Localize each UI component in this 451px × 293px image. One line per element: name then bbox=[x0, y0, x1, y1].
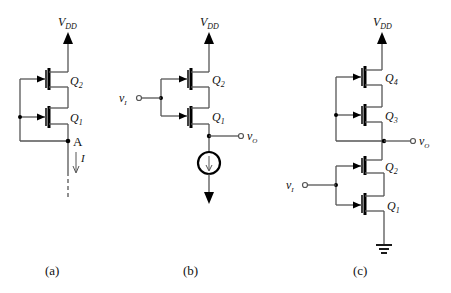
svg-text:Q3: Q3 bbox=[385, 109, 398, 125]
input-terminal-c bbox=[303, 183, 308, 188]
svg-text:Q4: Q4 bbox=[385, 71, 398, 87]
output-terminal-c bbox=[411, 139, 416, 144]
vdd-label-a: VDD bbox=[58, 15, 77, 31]
caption-a: (a) bbox=[45, 263, 59, 278]
svg-text:vI: vI bbox=[119, 91, 127, 107]
svg-text:VDD: VDD bbox=[200, 15, 219, 31]
input-terminal-b bbox=[137, 96, 142, 101]
caption-c: (c) bbox=[353, 263, 367, 278]
output-terminal-b bbox=[239, 134, 244, 139]
svg-text:vO: vO bbox=[247, 129, 257, 145]
svg-text:Q2: Q2 bbox=[70, 74, 83, 90]
caption-b: (b) bbox=[183, 263, 198, 278]
svg-text:I: I bbox=[80, 152, 86, 164]
panel-a: VDD Q2 Q1 A I (a) bbox=[18, 15, 86, 278]
svg-text:Q1: Q1 bbox=[70, 111, 83, 127]
svg-text:Q1: Q1 bbox=[387, 199, 400, 215]
panel-b: VDD Q2 Q1 vI vO (b bbox=[119, 15, 257, 278]
svg-text:Q1: Q1 bbox=[212, 110, 225, 126]
svg-text:vI: vI bbox=[286, 178, 294, 194]
ground-icon bbox=[376, 245, 392, 253]
svg-text:vO: vO bbox=[419, 134, 429, 150]
panel-c: VDD Q4 Q3 vO Q2 bbox=[286, 15, 429, 278]
svg-text:Q2: Q2 bbox=[385, 160, 398, 176]
vdd-arrow-icon bbox=[63, 32, 73, 44]
circuit-figure: VDD Q2 Q1 A I (a) bbox=[0, 0, 451, 293]
svg-text:Q2: Q2 bbox=[212, 73, 225, 89]
svg-text:A: A bbox=[73, 134, 83, 149]
svg-text:VDD: VDD bbox=[373, 15, 392, 31]
node-a bbox=[66, 139, 71, 144]
